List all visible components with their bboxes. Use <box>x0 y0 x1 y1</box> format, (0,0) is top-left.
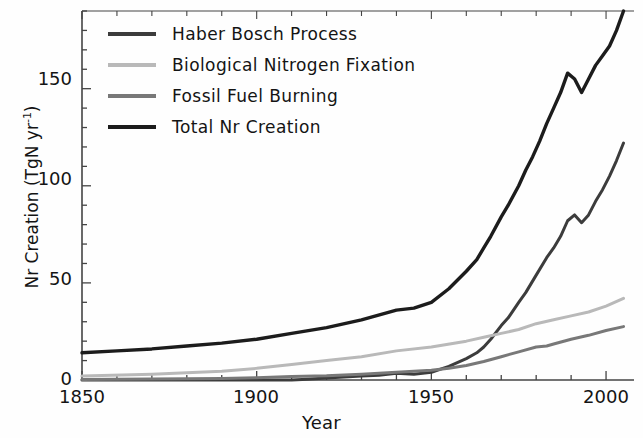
legend-label-biological-nitrogen-fixation: Biological Nitrogen Fixation <box>172 55 415 75</box>
y-axis-title: Nr Creation (TgN yr-1) <box>21 47 45 347</box>
legend-item-total-nr-creation[interactable]: Total Nr Creation <box>108 114 321 140</box>
series-line <box>82 298 624 376</box>
legend-item-biological-nitrogen-fixation[interactable]: Biological Nitrogen Fixation <box>108 52 415 78</box>
x-axis-title: Year <box>0 412 643 433</box>
legend-swatch-total-nr-creation <box>108 125 156 129</box>
legend-swatch-fossil-fuel-burning <box>108 94 156 98</box>
xtick-label-1900: 1900 <box>216 386 296 407</box>
xtick-label-2000: 2000 <box>566 386 643 407</box>
xtick-label-1850: 1850 <box>42 386 122 407</box>
series-line <box>82 143 624 380</box>
chart-figure: 0 50 100 150 1850 1900 1950 2000 Year Nr… <box>0 0 643 438</box>
y-axis-title-paren: ) <box>22 105 42 112</box>
legend-label-haber-bosch-process: Haber Bosch Process <box>172 24 357 44</box>
y-axis-title-exponent: -1 <box>21 112 34 123</box>
legend-label-total-nr-creation: Total Nr Creation <box>172 117 321 137</box>
xtick-label-1950: 1950 <box>391 386 471 407</box>
legend-item-fossil-fuel-burning[interactable]: Fossil Fuel Burning <box>108 83 338 109</box>
legend-label-fossil-fuel-burning: Fossil Fuel Burning <box>172 86 338 106</box>
y-axis-title-text: Nr Creation (TgN yr <box>22 123 42 288</box>
legend-swatch-haber-bosch-process <box>108 32 156 36</box>
legend-item-haber-bosch-process[interactable]: Haber Bosch Process <box>108 21 357 47</box>
series-line <box>82 327 624 380</box>
legend-swatch-biological-nitrogen-fixation <box>108 63 156 67</box>
